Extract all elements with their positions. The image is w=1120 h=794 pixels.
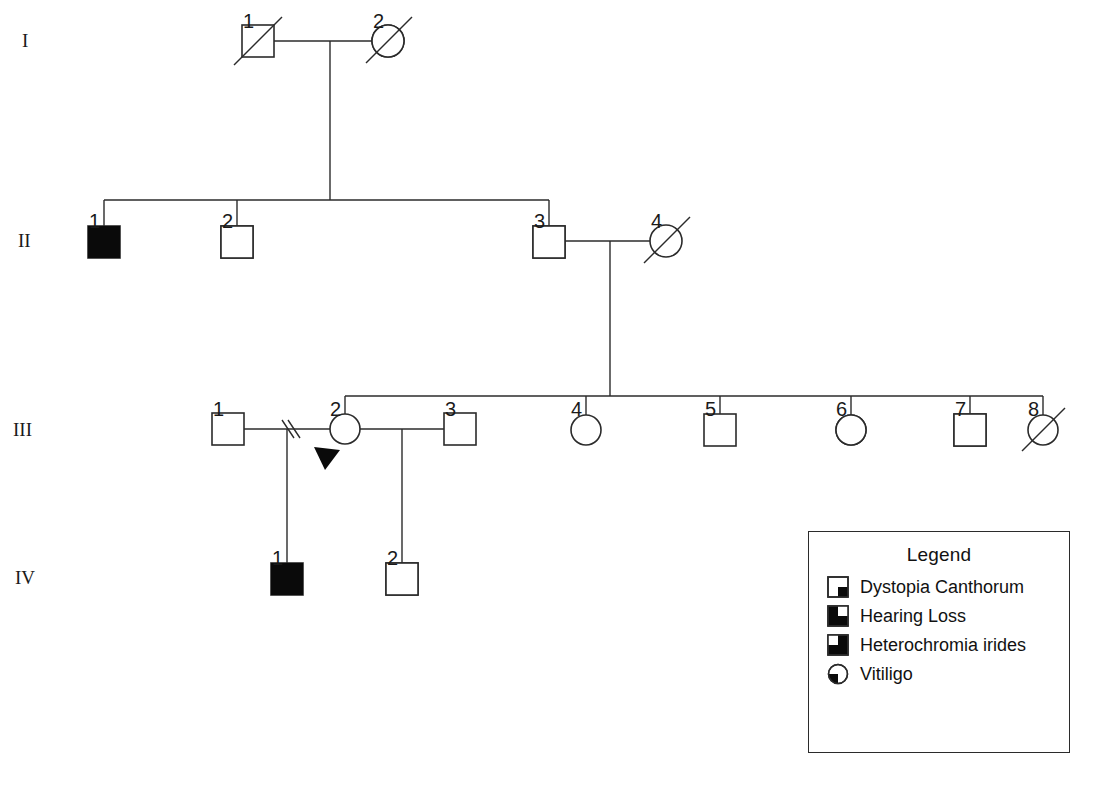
legend-title: Legend — [809, 544, 1069, 566]
id-label-iii-4: 4 — [571, 398, 582, 420]
proband-arrow — [314, 447, 340, 470]
individual-i-1[interactable] — [234, 17, 282, 65]
legend-label-dystopia-canthorum: Dystopia Canthorum — [860, 577, 1024, 598]
id-label-iii-6: 6 — [836, 398, 847, 420]
proband-arrow-icon — [314, 447, 340, 470]
legend-label-hearing-loss: Hearing Loss — [860, 606, 966, 627]
pedigree-connector-lines — [104, 41, 1043, 563]
heterochromia-irides-symbol-icon — [827, 634, 849, 656]
legend-item-dystopia-canthorum: Dystopia Canthorum — [827, 576, 1069, 598]
id-label-iii-5: 5 — [705, 398, 716, 420]
id-label-iv-2: 2 — [387, 547, 398, 569]
legend-label-heterochromia-irides: Heterochromia irides — [860, 635, 1026, 656]
id-label-ii-1: 1 — [89, 210, 100, 232]
legend-label-vitiligo: Vitiligo — [860, 664, 913, 685]
generation-label-iii: III — [13, 419, 32, 440]
id-label-i-1: 1 — [243, 10, 254, 32]
pedigree-chart: I II III IV — [0, 0, 1120, 794]
id-label-iv-1: 1 — [272, 547, 283, 569]
id-label-iii-8: 8 — [1028, 398, 1039, 420]
id-label-ii-2: 2 — [222, 210, 233, 232]
id-label-ii-3: 3 — [534, 210, 545, 232]
vitiligo-symbol-icon — [827, 663, 849, 685]
legend-item-heterochromia-irides: Heterochromia irides — [827, 634, 1069, 656]
generation-label-ii: II — [18, 230, 31, 251]
legend-item-hearing-loss: Hearing Loss — [827, 605, 1069, 627]
generation-label-i: I — [22, 30, 28, 51]
individual-id-labels: 1 2 1 2 3 4 1 2 3 4 5 6 7 8 1 2 — [89, 10, 1039, 569]
id-label-iii-7: 7 — [955, 398, 966, 420]
dystopia-canthorum-symbol-icon — [827, 576, 849, 598]
legend-box: Legend Dystopia Canthorum Hearing Loss — [808, 531, 1070, 753]
hearing-loss-symbol-icon — [827, 605, 849, 627]
generation-labels: I II III IV — [13, 30, 35, 588]
id-label-iii-1: 1 — [213, 398, 224, 420]
id-label-iii-2: 2 — [330, 398, 341, 420]
generation-label-iv: IV — [15, 567, 35, 588]
id-label-i-2: 2 — [373, 10, 384, 32]
legend-item-vitiligo: Vitiligo — [827, 663, 1069, 685]
id-label-iii-3: 3 — [445, 398, 456, 420]
id-label-ii-4: 4 — [651, 210, 662, 232]
